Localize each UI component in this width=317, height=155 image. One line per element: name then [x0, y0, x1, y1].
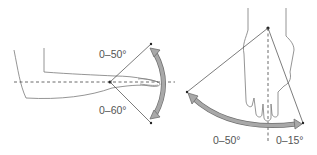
arrow-head-right-icon: [294, 119, 302, 129]
hand-outline: [243, 8, 294, 121]
lower-limit-point: [150, 122, 152, 124]
left-limit-line: [187, 28, 268, 92]
right-range-label: 0–15°: [276, 134, 304, 146]
upper-range-label: 0–50°: [99, 48, 127, 60]
lower-range-label: 0–60°: [99, 104, 127, 116]
range-of-motion-diagram: 0–50° 0–60° 0–50° 0–15°: [0, 0, 317, 155]
left-range-label: 0–50°: [213, 134, 241, 146]
upper-limit-point: [150, 43, 152, 45]
hand-panel: 0–50° 0–15°: [186, 8, 304, 146]
lower-limit-line: [110, 82, 151, 123]
right-limit-line: [268, 28, 303, 123]
forearm-panel: 0–50° 0–60°: [14, 43, 175, 124]
